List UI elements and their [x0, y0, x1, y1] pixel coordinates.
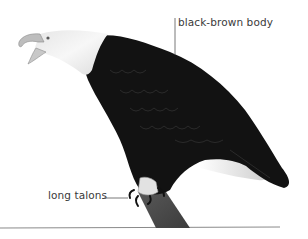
- label-long-talons: long talons: [48, 189, 107, 201]
- eagle-diagram: black-brown body long talons: [0, 0, 308, 239]
- label-black-brown-body: black-brown body: [178, 16, 273, 28]
- eagle-eye: [46, 36, 49, 39]
- eagle-illustration: [0, 0, 308, 239]
- ground-line: [0, 227, 280, 228]
- eagle-body: [84, 35, 290, 194]
